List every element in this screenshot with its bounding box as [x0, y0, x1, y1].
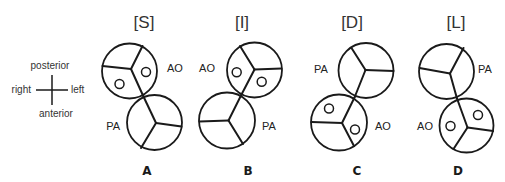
coronary-ostium-icon	[474, 111, 483, 120]
compass-anterior-label: anterior	[39, 108, 74, 119]
panel-d-ao-label: AO	[417, 120, 433, 132]
valve-commissure	[366, 70, 394, 71]
panel-d-pulmonary-artery	[419, 44, 474, 99]
coronary-ostium-icon	[142, 68, 151, 77]
panel-a-ao-label: AO	[167, 62, 183, 74]
valve-commissure	[355, 70, 366, 98]
panel-b-letter: B	[243, 164, 252, 178]
panel-b: [I] AO PA B	[199, 13, 282, 178]
panel-d-pa-label: PA	[478, 63, 493, 75]
panel-c-pulmonary-artery	[339, 43, 394, 98]
panel-c-letter: C	[353, 164, 362, 178]
valve-commissure	[312, 122, 343, 123]
panel-a-pa-label: PA	[106, 120, 121, 132]
orientation-compass: posterior right left anterior	[12, 60, 85, 119]
valve-commissure	[255, 69, 282, 70]
panel-a: [S] AO PA A	[102, 13, 183, 178]
valve-commissure	[342, 98, 355, 124]
valve-commissure	[352, 48, 366, 70]
panel-b-header: [I]	[235, 13, 249, 32]
panel-c-pa-label: PA	[314, 63, 329, 75]
valve-commissure	[242, 70, 255, 95]
panel-d-header: [L]	[447, 13, 466, 32]
compass-left-label: left	[71, 84, 85, 95]
valve-commissure	[450, 48, 464, 74]
coronary-ostium-icon	[232, 68, 241, 77]
panel-c-header: [D]	[341, 13, 363, 32]
panel-b-pulmonary-artery	[199, 93, 255, 149]
valve-commissure	[454, 128, 468, 150]
panel-a-header: [S]	[134, 13, 155, 32]
panel-b-ao-label: AO	[199, 62, 215, 74]
valve-commissure	[131, 46, 143, 69]
coronary-ostium-icon	[351, 125, 360, 134]
valve-commissure	[200, 121, 229, 122]
panel-c-aorta	[311, 95, 367, 151]
valve-commissure	[420, 68, 451, 74]
valve-commissure	[229, 121, 244, 145]
valve-commissure	[156, 123, 182, 127]
coronary-ostium-icon	[446, 122, 455, 131]
panel-a-letter: A	[142, 164, 152, 178]
valve-commissure	[103, 66, 132, 69]
coronary-ostium-icon	[115, 80, 124, 89]
valve-commissure	[143, 96, 156, 124]
valve-commissure	[141, 123, 156, 148]
panel-d-letter: D	[453, 164, 463, 178]
panel-d-aorta	[440, 99, 494, 153]
valve-commissure	[240, 46, 255, 70]
pulmonary-valve-circle	[419, 44, 474, 99]
panel-b-pa-label: PA	[262, 120, 277, 132]
panel-d: [L] PA AO D	[417, 13, 493, 178]
valve-commissure	[457, 99, 468, 128]
panel-c-ao-label: AO	[375, 120, 391, 132]
panel-b-aorta	[227, 43, 282, 98]
panel-a-aorta	[102, 44, 157, 99]
valve-commissure	[468, 128, 494, 132]
panel-a-pulmonary-artery	[127, 95, 182, 150]
compass-right-label: right	[12, 84, 32, 95]
compass-posterior-label: posterior	[31, 60, 71, 71]
aortic-valve-circle	[102, 44, 157, 99]
coronary-ostium-icon	[257, 77, 266, 86]
coronary-ostium-icon	[325, 104, 334, 113]
great-arteries-diagram: posterior right left anterior [S] AO PA …	[0, 0, 505, 182]
valve-commissure	[450, 74, 457, 99]
panel-c: [D] PA AO C	[311, 13, 394, 178]
pulmonary-valve-circle	[127, 95, 182, 150]
valve-commissure	[229, 95, 242, 121]
